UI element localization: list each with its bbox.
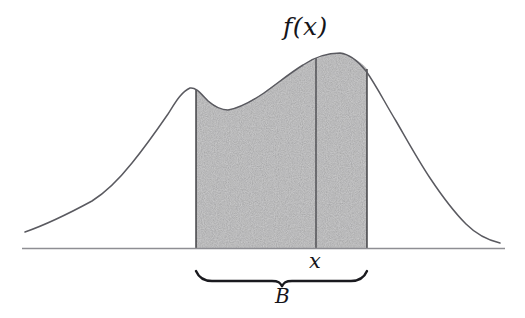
shaded-region-b-tint — [190, 45, 375, 255]
interval-label-b: B — [275, 286, 290, 306]
point-label-x: x — [309, 251, 321, 272]
figure-canvas: f(x) x B — [0, 0, 525, 318]
caption-fragment — [14, 309, 434, 318]
density-figure-svg — [0, 0, 525, 318]
curve-label-fx: f(x) — [283, 14, 328, 39]
shaded-region-b — [190, 45, 375, 255]
